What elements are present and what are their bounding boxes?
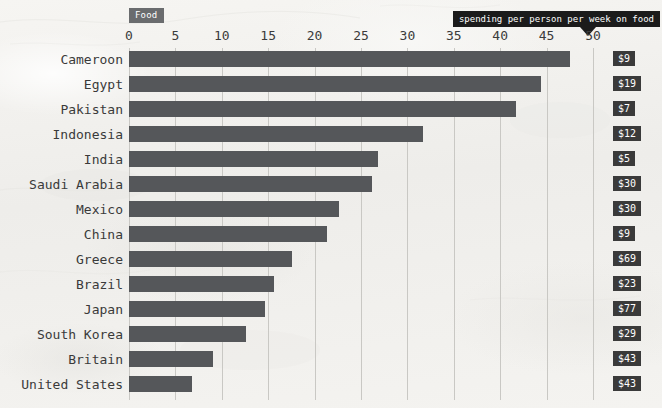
bar-row[interactable]: China$9	[0, 223, 662, 248]
bar-row-label: Britain	[68, 351, 123, 368]
x-tick-label: 40	[492, 28, 508, 44]
bar-row-label: Pakistan	[60, 101, 123, 118]
bar-row[interactable]: Indonesia$12	[0, 123, 662, 148]
bar-row[interactable]: Brazil$23	[0, 273, 662, 298]
value-badge: $43	[613, 376, 641, 391]
bar-row-label: Japan	[84, 301, 123, 318]
value-badge: $77	[613, 301, 641, 316]
value-badge: $29	[613, 326, 641, 341]
bar[interactable]	[129, 376, 192, 392]
bar-row-label: United States	[21, 376, 123, 393]
bar-row-label: Brazil	[76, 276, 123, 293]
callout-annotation: spending per person per week on food	[453, 11, 660, 27]
bar-row[interactable]: Cameroon$9	[0, 48, 662, 73]
bar[interactable]	[129, 51, 570, 67]
x-tick-label: 30	[400, 28, 416, 44]
x-tick-label: 0	[125, 28, 133, 44]
bar[interactable]	[129, 126, 423, 142]
x-tick-label: 20	[307, 28, 323, 44]
bar-row-label: Indonesia	[53, 126, 123, 143]
x-tick-label: 10	[214, 28, 230, 44]
x-tick-label: 5	[171, 28, 179, 44]
value-badge: $23	[613, 276, 641, 291]
bar[interactable]	[129, 176, 372, 192]
value-badge: $7	[613, 101, 635, 116]
bar[interactable]	[129, 351, 213, 367]
bar[interactable]	[129, 76, 541, 92]
bar[interactable]	[129, 301, 265, 317]
bar-row[interactable]: Pakistan$7	[0, 98, 662, 123]
bar-row-label: India	[84, 151, 123, 168]
value-badge: $12	[613, 126, 641, 141]
value-badge: $30	[613, 201, 641, 216]
value-badge: $9	[613, 226, 635, 241]
bar-row-label: China	[84, 226, 123, 243]
value-badge: $5	[613, 151, 635, 166]
x-tick-label: 15	[260, 28, 276, 44]
bar-row[interactable]: United States$43	[0, 373, 662, 398]
bar[interactable]	[129, 326, 246, 342]
bar-row[interactable]: Mexico$30	[0, 198, 662, 223]
x-tick-label: 35	[446, 28, 462, 44]
bar-row[interactable]: Japan$77	[0, 298, 662, 323]
value-badge: $19	[613, 76, 641, 91]
bar-row-label: South Korea	[37, 326, 123, 343]
plot-area: Cameroon$9Egypt$19Pakistan$7Indonesia$12…	[0, 48, 662, 400]
x-tick-label: 45	[539, 28, 555, 44]
bar-row[interactable]: India$5	[0, 148, 662, 173]
chart-page: Food spending per person per week on foo…	[0, 0, 662, 408]
bar-row-label: Saudi Arabia	[29, 176, 123, 193]
bar-row-label: Greece	[76, 251, 123, 268]
bar[interactable]	[129, 226, 327, 242]
bar-row[interactable]: Greece$69	[0, 248, 662, 273]
bar-row[interactable]: Egypt$19	[0, 73, 662, 98]
x-axis-tick-labels: 05101520253035404550	[0, 28, 662, 46]
value-badge: $9	[613, 51, 635, 66]
bar[interactable]	[129, 101, 516, 117]
category-tag: Food	[129, 8, 164, 23]
bar-row-label: Mexico	[76, 201, 123, 218]
bar-row-label: Cameroon	[60, 51, 123, 68]
bar-row[interactable]: Saudi Arabia$30	[0, 173, 662, 198]
value-badge: $30	[613, 176, 641, 191]
bar-row[interactable]: South Korea$29	[0, 323, 662, 348]
bar[interactable]	[129, 276, 274, 292]
x-tick-label: 50	[585, 28, 601, 44]
value-badge: $43	[613, 351, 641, 366]
x-tick-label: 25	[353, 28, 369, 44]
value-badge: $69	[613, 251, 641, 266]
bar[interactable]	[129, 201, 339, 217]
bar-row-label: Egypt	[84, 76, 123, 93]
bar[interactable]	[129, 251, 292, 267]
bar-row[interactable]: Britain$43	[0, 348, 662, 373]
bar[interactable]	[129, 151, 378, 167]
